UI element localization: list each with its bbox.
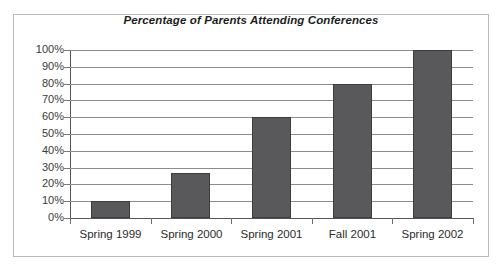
x-axis-tick: [392, 218, 393, 224]
y-axis-tick: [64, 184, 70, 185]
y-axis-tick: [64, 100, 70, 101]
gridline: [70, 218, 473, 219]
y-axis-tick-label: 80%: [20, 78, 64, 89]
y-axis-tick-label: 60%: [20, 111, 64, 122]
y-axis-tick: [64, 117, 70, 118]
plot-area: [70, 50, 473, 218]
y-axis-tick-label: 40%: [20, 145, 64, 156]
x-axis-tick: [312, 218, 313, 224]
x-axis-tick-label: Fall 2001: [312, 228, 393, 241]
chart-title: Percentage of Parents Attending Conferen…: [0, 14, 502, 26]
y-axis-tick-label: 70%: [20, 94, 64, 105]
y-axis-tick-label: 90%: [20, 61, 64, 72]
y-axis-tick: [64, 67, 70, 68]
bar: [171, 173, 210, 218]
x-axis-tick-label: Spring 1999: [70, 228, 151, 241]
bar: [91, 201, 130, 218]
bar: [413, 50, 452, 218]
chart-figure: Percentage of Parents Attending Conferen…: [0, 0, 502, 271]
y-axis-tick-label: 0%: [20, 212, 64, 223]
y-axis-tick: [64, 168, 70, 169]
x-axis-tick-label: Spring 2000: [151, 228, 232, 241]
y-axis-tick-label: 20%: [20, 178, 64, 189]
y-axis-tick-label: 100%: [20, 44, 64, 55]
y-axis-tick: [64, 151, 70, 152]
bar: [333, 84, 372, 218]
y-axis-tick: [64, 84, 70, 85]
y-axis-tick: [64, 50, 70, 51]
y-axis-tick-label: 50%: [20, 128, 64, 139]
x-axis-tick-label: Spring 2001: [231, 228, 312, 241]
x-axis-tick: [151, 218, 152, 224]
y-axis-tick: [64, 201, 70, 202]
x-axis-labels: Spring 1999Spring 2000Spring 2001Fall 20…: [70, 228, 473, 248]
bar: [252, 117, 291, 218]
y-axis-labels: 0%10%20%30%40%50%60%70%80%90%100%: [16, 0, 64, 271]
x-axis-tick: [70, 218, 71, 224]
x-axis-tick: [231, 218, 232, 224]
y-axis-tick-label: 30%: [20, 162, 64, 173]
y-axis-tick-label: 10%: [20, 195, 64, 206]
x-axis-tick-label: Spring 2002: [392, 228, 473, 241]
x-axis-tick: [473, 218, 474, 224]
y-axis-tick: [64, 134, 70, 135]
